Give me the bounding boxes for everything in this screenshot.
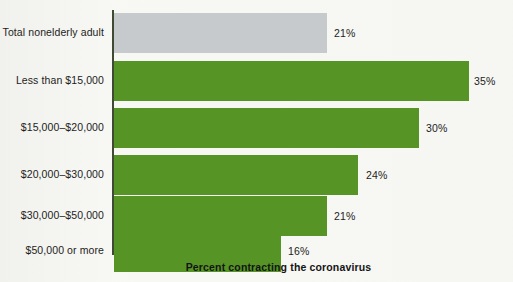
- bar: [114, 155, 358, 195]
- value-label: 24%: [366, 169, 387, 181]
- value-label: 30%: [426, 122, 447, 134]
- bar: [114, 196, 327, 236]
- bar: [114, 61, 469, 101]
- bar-row: $20,000–$30,000 24%: [0, 155, 513, 195]
- value-label: 16%: [288, 245, 309, 257]
- bar-row: Less than $15,000 35%: [0, 61, 513, 101]
- category-label: $20,000–$30,000: [21, 168, 104, 180]
- category-label: $50,000 or more: [25, 244, 104, 256]
- category-label: Less than $15,000: [16, 74, 104, 86]
- bar-row: $15,000–$20,000 30%: [0, 108, 513, 148]
- x-axis-title: Percent contracting the coronavirus: [0, 261, 513, 273]
- value-label: 21%: [334, 27, 355, 39]
- bar-row: $30,000–$50,000 21%: [0, 196, 513, 236]
- category-label: $15,000–$20,000: [21, 121, 104, 133]
- plot-area: Total nonelderly adult 21% Less than $15…: [0, 0, 513, 282]
- value-label: 35%: [474, 75, 495, 87]
- bar-row: Total nonelderly adult 21%: [0, 13, 513, 53]
- category-label: $30,000–$50,000: [21, 209, 104, 221]
- value-label: 21%: [334, 210, 355, 222]
- bar-chart: Total nonelderly adult 21% Less than $15…: [0, 0, 513, 282]
- category-label: Total nonelderly adult: [3, 26, 104, 38]
- bar: [114, 108, 419, 148]
- bar: [114, 13, 327, 53]
